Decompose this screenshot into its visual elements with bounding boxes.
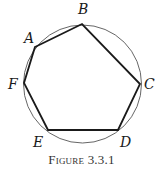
figure-caption: Figure 3.3.1 [0, 152, 163, 168]
hexagon-ABCDEF [24, 24, 140, 130]
vertex-label-c: C [144, 76, 155, 92]
vertex-label-b: B [77, 1, 88, 17]
circumscribed-circle [24, 25, 142, 143]
vertex-label-e: E [32, 134, 43, 150]
cyclic-hexagon-diagram: ABCDEF [0, 0, 163, 171]
vertex-label-f: F [7, 76, 19, 92]
vertex-label-d: D [119, 134, 131, 150]
vertex-label-a: A [22, 30, 34, 46]
